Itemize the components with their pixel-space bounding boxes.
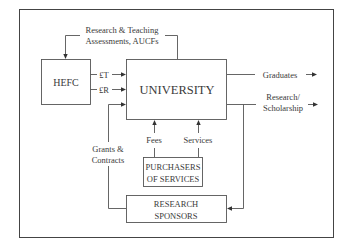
university-label: UNIVERSITY (140, 83, 215, 97)
hefc-label: HEFC (53, 77, 79, 88)
purchasers-label-line2: OF SERVICES (147, 174, 200, 184)
funding-flow-diagram: HEFC UNIVERSITY PURCHASERS OF SERVICES R… (0, 0, 351, 249)
services-label: Services (184, 135, 213, 145)
grants-label-line1: Grants & (92, 144, 124, 154)
sponsors-label-line1: RESEARCH (154, 199, 198, 209)
teaching-funds-label: £T (99, 70, 109, 80)
fees-label: Fees (146, 135, 162, 145)
hefc-node: HEFC (42, 60, 91, 105)
sponsors-label-line2: SPONSORS (155, 211, 198, 221)
purchasers-node: PURCHASERS OF SERVICES (144, 158, 203, 187)
purchasers-label-line1: PURCHASERS (146, 162, 201, 172)
university-node: UNIVERSITY (127, 60, 227, 120)
research-output-label-line2: Scholarship (263, 103, 303, 113)
research-output-label-line1: Research/ (266, 92, 300, 102)
graduates-label: Graduates (263, 70, 297, 80)
sponsors-node: RESEARCH SPONSORS (127, 196, 227, 223)
assessments-label-line2: Assessments, AUCFs (85, 36, 158, 46)
research-funds-label: £R (99, 85, 109, 95)
grants-label-line2: Contracts (92, 155, 125, 165)
assessments-label-line1: Research & Teaching (86, 25, 160, 35)
